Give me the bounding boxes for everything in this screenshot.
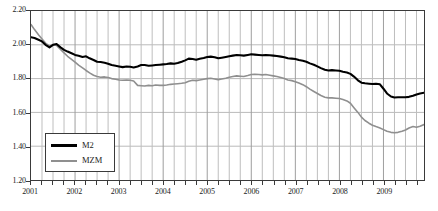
x-axis-tick-mark [163,181,164,185]
x-axis-tick-mark [207,181,208,185]
chart-legend: M2 MZM [45,133,115,172]
series-line-m2 [31,37,424,97]
x-axis-tick-mark [318,181,319,185]
y-axis-tick-label: 1.60 [0,109,26,117]
x-axis-tick-label: 2004 [143,187,183,196]
x-axis-tick-mark [30,181,31,185]
x-axis-tick-label: 2003 [99,187,139,196]
x-axis-tick-mark [285,181,286,185]
x-axis-tick-mark [296,181,297,185]
x-axis-tick-mark [96,181,97,185]
y-axis-tick-mark [26,147,30,148]
x-axis-tick-label: 2007 [276,187,316,196]
x-axis-tick-mark [74,181,75,185]
y-axis-tick-mark [26,10,30,11]
x-axis-tick-mark [417,181,418,185]
x-axis-tick-label: 2008 [320,187,360,196]
x-axis-tick-mark [229,181,230,185]
x-axis-tick-mark [63,181,64,185]
x-axis-tick-label: 2002 [54,187,94,196]
y-axis-tick-label: 2.20 [0,6,26,14]
x-axis-tick-mark [340,181,341,185]
x-axis-tick-label: 2009 [364,187,404,196]
chart-container: 2.202.001.801.601.401.20 200120022003200… [0,0,438,211]
y-axis-tick-mark [26,44,30,45]
x-axis-tick-mark [274,181,275,185]
y-axis-tick-mark [26,78,30,79]
x-axis-tick-mark [119,181,120,185]
legend-label-mzm: MZM [82,156,102,165]
x-axis-tick-mark [307,181,308,185]
x-axis-tick-mark [218,181,219,185]
x-axis-tick-mark [373,181,374,185]
x-axis-tick-mark [152,181,153,185]
y-axis-tick-label: 2.00 [0,40,26,48]
y-axis-tick-label: 1.20 [0,177,26,185]
y-axis-tick-label: 1.40 [0,143,26,151]
x-axis-tick-mark [362,181,363,185]
legend-swatch-m2-icon [51,144,77,147]
x-axis-tick-mark [240,181,241,185]
x-axis-tick-mark [141,181,142,185]
x-axis-tick-mark [52,181,53,185]
x-axis-tick-mark [262,181,263,185]
x-axis-tick-mark [406,181,407,185]
y-axis-tick-label: 1.80 [0,74,26,82]
x-axis-tick-mark [41,181,42,185]
x-axis-tick-mark [384,181,385,185]
y-axis-tick-mark [26,113,30,114]
x-axis-tick-mark [329,181,330,185]
x-axis-tick-mark [107,181,108,185]
x-axis-tick-mark [174,181,175,185]
x-axis-tick-mark [351,181,352,185]
x-axis-tick-mark [85,181,86,185]
x-axis-tick-mark [130,181,131,185]
x-axis-tick-mark [196,181,197,185]
x-axis-tick-label: 2005 [187,187,227,196]
legend-entry-m2: M2 [51,141,94,150]
x-axis-tick-mark [185,181,186,185]
legend-label-m2: M2 [82,141,94,150]
legend-entry-mzm: MZM [51,156,102,165]
legend-swatch-mzm-icon [51,160,77,162]
x-axis-tick-label: 2006 [231,187,271,196]
x-axis-tick-label: 2001 [10,187,50,196]
x-axis-tick-mark [251,181,252,185]
x-axis-tick-mark [395,181,396,185]
